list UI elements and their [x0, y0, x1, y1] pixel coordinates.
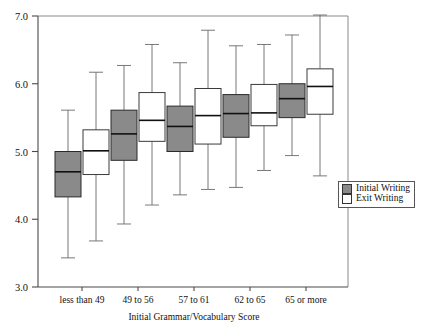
y-tick-label: 3.0: [15, 282, 28, 293]
x-tick-label: 65 or more: [285, 295, 327, 305]
x-tick-marks: [82, 287, 306, 291]
box-rect: [279, 84, 305, 118]
box-rect: [55, 152, 81, 197]
boxplot-initial-3: [223, 46, 249, 188]
y-tick-label: 4.0: [15, 214, 28, 225]
y-tick-label: 5.0: [15, 147, 28, 158]
box-rect: [167, 106, 193, 151]
legend-label: Exit Writing: [356, 194, 403, 204]
boxplot-exit-2: [195, 30, 221, 189]
y-axis-labels: 7.0 6.0 5.0 4.0 3.0: [15, 11, 28, 293]
legend-item-exit-writing: Exit Writing: [342, 194, 410, 204]
y-tick-label: 7.0: [15, 11, 28, 22]
boxplot-initial-0: [55, 110, 81, 258]
box-rect: [251, 84, 277, 125]
boxplot-exit-4: [307, 15, 333, 176]
boxplot-initial-4: [279, 35, 305, 156]
box-rect: [111, 110, 137, 160]
box-rect: [83, 130, 109, 175]
x-tick-label: less than 49: [60, 295, 105, 305]
x-tick-label: 49 to 56: [122, 295, 153, 305]
boxplot-exit-1: [139, 44, 165, 205]
x-tick-label: 57 to 61: [178, 295, 209, 305]
boxplot-canvas: 7.0 6.0 5.0 4.0 3.0 less than 49 49 to 5…: [0, 0, 427, 332]
y-tick-label: 6.0: [15, 79, 28, 90]
x-tick-label: 62 to 65: [234, 295, 265, 305]
boxplot-exit-0: [83, 72, 109, 241]
y-tick-marks: [32, 16, 38, 287]
box-rect: [223, 95, 249, 138]
chart-legend: Initial Writing Exit Writing: [338, 181, 415, 208]
boxplot-figure: 7.0 6.0 5.0 4.0 3.0 less than 49 49 to 5…: [0, 0, 427, 332]
x-axis-labels: less than 49 49 to 56 57 to 61 62 to 65 …: [60, 295, 327, 305]
legend-swatch-exit-icon: [342, 194, 352, 204]
box-rect: [139, 93, 165, 142]
boxes-layer: [55, 15, 333, 258]
boxplot-exit-3: [251, 44, 277, 170]
boxplot-initial-2: [167, 63, 193, 195]
boxplot-initial-1: [111, 65, 137, 224]
box-rect: [307, 69, 333, 114]
legend-swatch-initial-icon: [342, 184, 352, 194]
x-axis-title: Initial Grammar/Vocabulary Score: [128, 312, 259, 322]
